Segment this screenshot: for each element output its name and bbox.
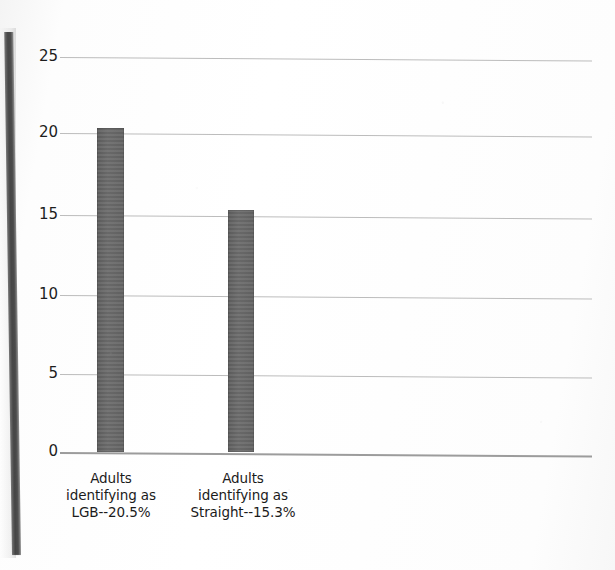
ytick-15: 15	[0, 207, 58, 223]
gridline-10	[60, 295, 592, 300]
ytick-25: 25	[0, 49, 58, 65]
ytick-label-15: 15	[18, 207, 58, 222]
category-label-lgb-line2: identifying as	[51, 487, 171, 504]
ytick-label-10: 10	[18, 287, 58, 302]
category-label-straight: Adults identifying as Straight--15.3%	[180, 470, 306, 521]
ytick-0: 0	[0, 444, 58, 460]
gridline-5	[60, 374, 592, 379]
ytick-5: 5	[0, 366, 58, 382]
category-label-lgb: Adults identifying as LGB--20.5%	[51, 470, 171, 521]
category-label-straight-line1: Adults	[180, 470, 306, 487]
gridline-15	[60, 215, 592, 220]
ytick-label-0: 0	[18, 444, 58, 459]
category-label-lgb-line3: LGB--20.5%	[51, 504, 171, 521]
ytick-10: 10	[0, 287, 58, 303]
ytick-label-20: 20	[18, 125, 58, 140]
category-label-straight-line2: identifying as	[180, 487, 306, 504]
bar-straight[interactable]	[228, 210, 254, 452]
plot-area: 25 20 15 10 5 0 Adults identifying as LG…	[0, 0, 615, 570]
ytick-label-5: 5	[18, 366, 58, 381]
x-axis-baseline	[60, 452, 592, 458]
ytick-label-25: 25	[18, 49, 58, 64]
chart-page: 25 20 15 10 5 0 Adults identifying as LG…	[0, 0, 615, 570]
ytick-20: 20	[0, 125, 58, 141]
category-label-straight-line3: Straight--15.3%	[180, 504, 306, 521]
bar-lgb[interactable]	[97, 128, 124, 452]
gridline-20	[60, 133, 592, 138]
gridline-25	[60, 57, 592, 62]
category-label-lgb-line1: Adults	[51, 470, 171, 487]
